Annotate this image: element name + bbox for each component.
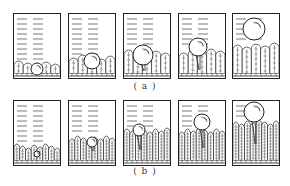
caption-b: ( b ) [0, 166, 290, 176]
panel-b4 [178, 100, 226, 166]
panel-b2 [68, 100, 116, 166]
panel-b1 [13, 100, 61, 166]
panel-b5 [232, 100, 280, 166]
caption-a: ( a ) [0, 81, 290, 91]
row-b [0, 100, 290, 170]
panel-b3 [123, 100, 171, 166]
panel-a4 [178, 13, 226, 79]
row-a [0, 13, 290, 83]
panel-a1 [13, 13, 61, 79]
panel-a2 [68, 13, 116, 79]
panel-a5 [232, 13, 280, 79]
panel-a3 [123, 13, 171, 79]
